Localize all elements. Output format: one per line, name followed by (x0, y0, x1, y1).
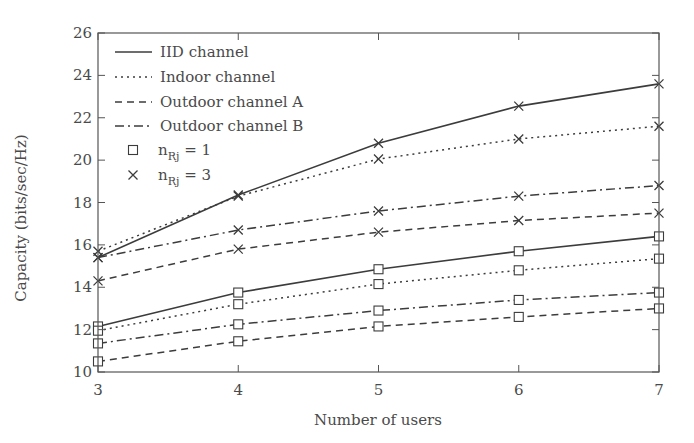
legend-label: Indoor channel (160, 68, 275, 86)
x-marker-icon (374, 139, 383, 148)
legend-label: Outdoor channel B (160, 117, 303, 135)
square-marker-icon (374, 280, 383, 289)
y-tick-label: 12 (73, 321, 92, 339)
legend-item-0: IID channel (115, 43, 249, 61)
legend: IID channelIndoor channelOutdoor channel… (115, 43, 303, 188)
y-tick-label: 26 (73, 24, 92, 42)
legend-label: Outdoor channel A (160, 93, 303, 111)
legend-label: nRj = 1 (158, 141, 211, 163)
square-marker-icon (514, 266, 523, 275)
square-marker-icon (234, 320, 243, 329)
x-tick-label: 4 (233, 381, 243, 399)
series-6 (94, 288, 664, 348)
x-marker-icon (514, 134, 523, 143)
legend-item-4: nRj = 1 (129, 141, 212, 163)
square-marker-icon (234, 288, 243, 297)
square-marker-icon (514, 247, 523, 256)
legend-item-2: Outdoor channel A (115, 93, 303, 111)
square-marker-icon (514, 312, 523, 321)
square-marker-icon (234, 300, 243, 309)
series-line (98, 293, 659, 344)
x-marker-icon (129, 171, 138, 180)
x-tick-label: 3 (93, 381, 103, 399)
series-line (98, 186, 659, 258)
x-tick-label: 5 (374, 381, 384, 399)
square-marker-icon (129, 146, 138, 155)
square-marker-icon (374, 265, 383, 274)
y-tick-label: 16 (73, 236, 92, 254)
legend-item-5: nRj = 3 (129, 166, 212, 188)
square-marker-icon (374, 322, 383, 331)
square-marker-icon (374, 306, 383, 315)
legend-label: nRj = 3 (158, 166, 211, 188)
x-tick-label: 6 (514, 381, 524, 399)
y-axis-label: Capacity (bits/sec/Hz) (12, 134, 30, 301)
y-tick-label: 24 (73, 66, 92, 84)
series-line (98, 308, 659, 361)
x-marker-icon (374, 155, 383, 164)
square-marker-icon (514, 295, 523, 304)
y-tick-label: 18 (73, 194, 92, 212)
x-axis-label: Number of users (314, 411, 442, 429)
y-tick-label: 20 (73, 151, 92, 169)
legend-item-1: Indoor channel (115, 68, 275, 86)
x-marker-icon (234, 191, 243, 200)
legend-item-3: Outdoor channel B (115, 117, 303, 135)
y-tick-label: 10 (73, 363, 92, 381)
square-marker-icon (234, 337, 243, 346)
y-tick-label: 14 (73, 278, 92, 296)
x-tick-label: 7 (654, 381, 664, 399)
legend-label: IID channel (160, 43, 249, 61)
capacity-line-chart: 34567101214161820222426 IID channelIndoo… (0, 0, 694, 443)
y-tick-label: 22 (73, 109, 92, 127)
